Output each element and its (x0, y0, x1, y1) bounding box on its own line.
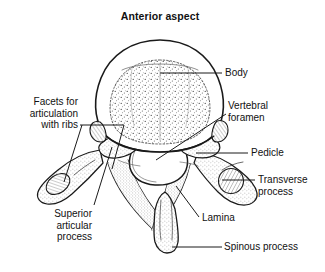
figure-title-line1: Anterior (121, 10, 163, 22)
left-transverse-process (37, 150, 103, 204)
vertebral-body (96, 40, 224, 152)
label-vertebral-foramen: Vertebral foramen (228, 100, 268, 123)
label-transverse-process: Transverse process (258, 174, 308, 197)
label-superior-articular-process: Superior articular process (24, 208, 92, 243)
figure-title-line2: aspect (165, 10, 199, 22)
figure-title: Anterior aspect (112, 10, 208, 22)
label-body: Body (225, 67, 248, 79)
label-facets-for-ribs: Facets for articulation with ribs (2, 96, 78, 131)
leader-lamina (176, 186, 199, 217)
label-pedicle: Pedicle (251, 147, 284, 159)
label-lamina: Lamina (202, 212, 235, 224)
right-transverse-process (194, 152, 257, 205)
label-spinous-process: Spinous process (224, 241, 298, 253)
vertebra-figure: Anterior aspect Body Vertebral foramen P… (0, 0, 325, 272)
